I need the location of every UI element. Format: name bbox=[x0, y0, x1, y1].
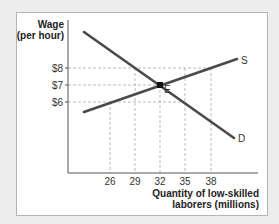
y-axis-title-line1: Wage bbox=[38, 19, 65, 30]
x-tick-32: 32 bbox=[154, 176, 166, 187]
x-tick-38: 38 bbox=[205, 176, 217, 187]
supply-label: S bbox=[241, 55, 248, 66]
demand-label: D bbox=[238, 133, 245, 144]
y-tick-8: $8 bbox=[52, 63, 64, 74]
y-tick-6: $6 bbox=[52, 97, 64, 108]
axes bbox=[65, 20, 258, 173]
equilibrium-point bbox=[157, 82, 163, 88]
equilibrium-label: E bbox=[164, 84, 171, 95]
x-axis-title-line1: Quantity of low-skilled bbox=[152, 188, 259, 199]
y-tick-7: $7 bbox=[52, 80, 64, 91]
reference-lines bbox=[68, 68, 211, 173]
x-tick-35: 35 bbox=[179, 176, 191, 187]
x-tick-29: 29 bbox=[129, 176, 141, 187]
x-axis-title-line2: laborers (millions) bbox=[172, 199, 259, 210]
x-tick-26: 26 bbox=[104, 176, 116, 187]
supply-demand-chart: E S D Wage (per hour) $8 $7 $6 26 29 32 … bbox=[0, 0, 279, 224]
y-axis-title-line2: (per hour) bbox=[17, 30, 64, 41]
